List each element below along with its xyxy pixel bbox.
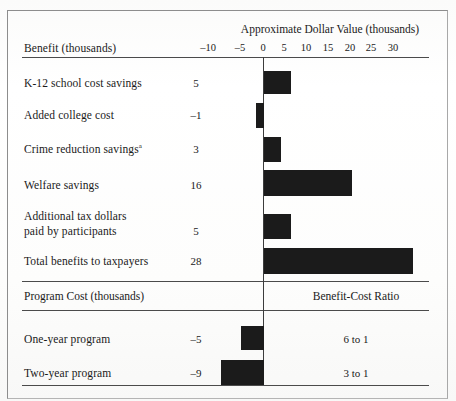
figure-page: Approximate Dollar Value (thousands) Ben… (0, 0, 456, 401)
x-tick-label--5: –5 (235, 43, 246, 54)
rule-under-program-cost-header (22, 310, 429, 311)
bar-added-college-cost (256, 103, 264, 128)
footnote-cropped (30, 396, 430, 401)
x-tick-label-10: 10 (301, 43, 312, 54)
program-cost-header: Program Cost (thousands) (24, 291, 144, 303)
row-value-two-year-program: –9 (191, 368, 202, 379)
ratio-two-year-program: 3 to 1 (343, 368, 368, 379)
row-label-welfare-savings: Welfare savings (24, 180, 99, 192)
x-tick-label-15: 15 (323, 43, 334, 54)
row-label-additional-tax-line1: Additional tax dollars (24, 211, 127, 223)
row-label-k12: K-12 school cost savings (24, 78, 142, 90)
row-label-one-year-program: One-year program (24, 334, 110, 346)
benefit-cost-ratio-header: Benefit-Cost Ratio (313, 291, 400, 303)
row-label-crime-text: Crime reduction savings (24, 143, 139, 155)
row-value-total-benefits: 28 (191, 256, 202, 267)
x-tick-label-20: 20 (345, 43, 356, 54)
benefit-column-header: Benefit (thousands) (24, 43, 116, 55)
row-value-added-college-cost: –1 (191, 110, 202, 121)
bar-two-year-program (221, 360, 264, 385)
x-tick-label-25: 25 (366, 43, 377, 54)
row-value-welfare-savings: 16 (191, 180, 202, 191)
row-label-additional-tax-line2: paid by participants (24, 226, 117, 238)
row-value-one-year-program: –5 (191, 334, 202, 345)
ratio-one-year-program: 6 to 1 (343, 334, 368, 345)
rule-above-program-cost (22, 281, 429, 282)
row-label-crime-reduction-savings: Crime reduction savingsa (24, 144, 142, 156)
row-value-k12: 5 (193, 78, 199, 89)
x-tick-label-0: 0 (260, 43, 265, 54)
row-label-two-year-program: Two-year program (24, 368, 111, 380)
bar-k12-school-cost-savings (264, 71, 291, 94)
row-value-crime-reduction-savings: 3 (193, 144, 199, 155)
bar-total-benefits-to-taxpayers (264, 248, 413, 274)
bar-crime-reduction-savings (264, 137, 281, 162)
bar-additional-tax-dollars (264, 214, 291, 239)
footnote-marker-a: a (139, 142, 142, 150)
x-tick-label--10: –10 (200, 43, 216, 54)
row-value-additional-tax: 5 (193, 226, 199, 237)
rule-under-header (22, 57, 429, 58)
row-label-added-college-cost: Added college cost (24, 110, 114, 122)
bar-welfare-savings (264, 170, 352, 196)
row-label-total-benefits: Total benefits to taxpayers (24, 256, 148, 268)
rule-bottom (22, 385, 429, 386)
x-tick-label-30: 30 (388, 43, 399, 54)
bar-one-year-program (241, 326, 264, 350)
axis-title: Approximate Dollar Value (thousands) (241, 24, 419, 36)
x-tick-label-5: 5 (281, 43, 286, 54)
